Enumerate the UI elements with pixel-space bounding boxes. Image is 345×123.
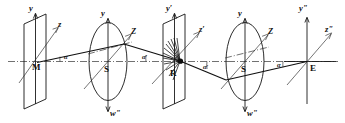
station-scatter-R: y′ z′ R xyxy=(152,3,205,109)
z-axis-E xyxy=(287,34,331,85)
label-z-axis-E: zʺ xyxy=(324,24,333,34)
label-y-axis-R: y′ xyxy=(165,3,172,13)
station-detector-E: yʺ zʺ E xyxy=(284,3,336,104)
label-Z-axis-S2: Z xyxy=(267,26,273,36)
label-angle-alpha-1: α xyxy=(64,53,68,60)
station-lens-S2: y Z wʺ S xyxy=(221,8,273,118)
label-point-R: R xyxy=(170,68,177,78)
label-z-axis-R: z′ xyxy=(198,24,205,34)
label-point-S1: S xyxy=(104,64,109,74)
label-point-M: M xyxy=(32,62,41,72)
label-w-axis-S1: wʺ xyxy=(110,108,121,118)
station-source-M: y z M xyxy=(19,3,62,109)
ray-M-to-lens1 xyxy=(37,44,124,63)
lens-2-chief-ref xyxy=(225,47,269,58)
label-z-axis-M: z xyxy=(57,19,62,29)
label-y-axis-S2: y xyxy=(237,8,242,18)
label-angle-alpha-3: α′ xyxy=(203,63,209,70)
diagram-canvas: y z M y Z wʺ S xyxy=(0,0,345,123)
label-point-S2: S xyxy=(241,64,246,74)
label-angle-alpha-2: α′ xyxy=(142,53,148,60)
label-w-axis-S2: wʺ xyxy=(247,108,258,118)
optical-ray-diagram: y z M y Z wʺ S xyxy=(0,0,345,123)
label-y-axis-E: yʺ xyxy=(298,3,308,13)
z-axis-M xyxy=(19,28,58,83)
ray-lens2-to-E xyxy=(226,62,307,81)
label-angle-alpha-4: α xyxy=(277,61,281,68)
label-point-E: E xyxy=(310,63,316,73)
label-Z-axis-S1: Z xyxy=(130,26,136,36)
label-y-axis-S1: y xyxy=(100,8,105,18)
label-y-axis-M: y xyxy=(28,3,33,13)
station-lens-S1: y Z wʺ S xyxy=(84,8,136,118)
